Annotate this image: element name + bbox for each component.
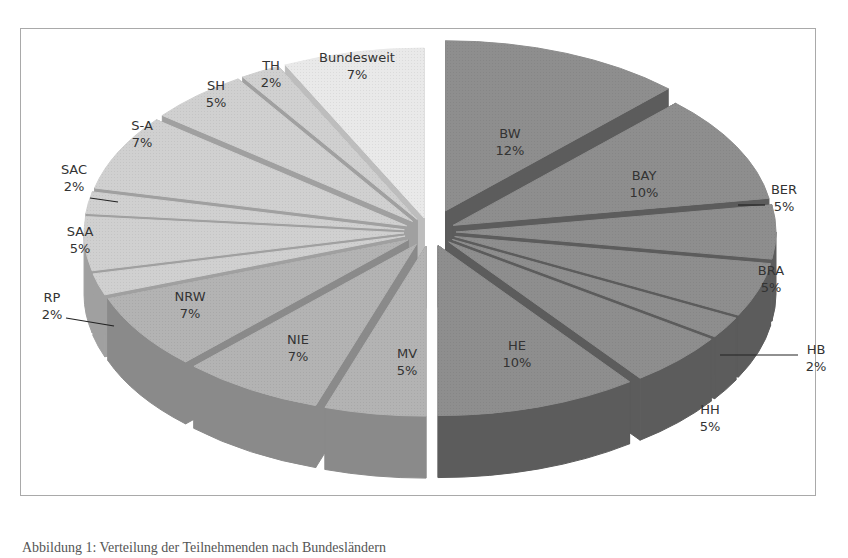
label-sac: SAC2% — [61, 162, 87, 194]
pie-chart: BW12% BAY10% BER5% BRA5% HB2% HH5% HE10%… — [0, 0, 848, 558]
label-hb: HB2% — [806, 342, 827, 374]
pie-slices — [84, 41, 776, 478]
figure-caption: Abbildung 1: Verteilung der Teilnehmende… — [22, 540, 386, 556]
label-rp: RP2% — [42, 290, 63, 322]
label-ber: BER5% — [771, 182, 797, 214]
label-hh: HH5% — [700, 402, 721, 434]
